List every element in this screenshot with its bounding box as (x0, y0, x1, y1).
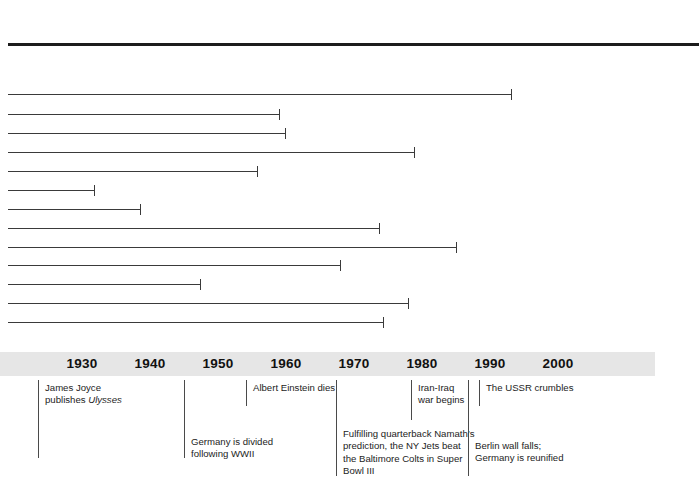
lifespan-bar-end-cap (94, 185, 95, 196)
axis-tick-label-1940: 1940 (135, 354, 166, 374)
annotation-text: Fulfilling quarterback Namath’s predicti… (343, 426, 475, 478)
axis-tick-label-1950: 1950 (203, 354, 234, 374)
annotation-3: Albert Einstein dies (246, 380, 335, 406)
lifespan-bar-line (8, 322, 384, 323)
lifespan-bar (8, 247, 457, 248)
lifespan-bar-end-cap (279, 109, 280, 120)
lifespan-bar-line (8, 284, 201, 285)
lifespan-bar (8, 190, 95, 191)
lifespan-bar (8, 171, 258, 172)
axis-tick-label-1970: 1970 (339, 354, 370, 374)
annotation-1: James Joyce publishes Ulysses (38, 380, 122, 458)
lifespan-bar-end-cap (456, 242, 457, 253)
lifespan-bar-end-cap (379, 223, 380, 234)
annotation-5: Iran-Iraq war begins (411, 380, 464, 420)
lifespan-bar (8, 322, 384, 323)
annotation-text: Iran-Iraq war begins (418, 380, 464, 407)
lifespan-bar (8, 228, 380, 229)
timeline-chart: 19301940195019601970198019902000 James J… (0, 0, 699, 502)
lifespan-bar-end-cap (383, 317, 384, 328)
annotation-text: James Joyce publishes Ulysses (45, 380, 122, 407)
annotation-italic-title: Ulysses (88, 394, 122, 405)
lifespan-bar-end-cap (140, 204, 141, 215)
lifespan-bar-line (8, 303, 409, 304)
lifespan-bar-line (8, 114, 280, 115)
lifespan-bar (8, 284, 201, 285)
annotation-tick-line (336, 380, 337, 476)
annotation-text: Albert Einstein dies (253, 380, 335, 394)
axis-tick-label-1990: 1990 (475, 354, 506, 374)
annotation-tick-line (411, 380, 412, 420)
annotation-text: The USSR crumbles (486, 380, 573, 394)
annotation-tick-line (184, 380, 185, 458)
annotations-layer: James Joyce publishes UlyssesGermany is … (0, 376, 699, 502)
lifespan-bar (8, 94, 512, 95)
lifespan-bar (8, 152, 415, 153)
lifespan-bar-line (8, 171, 258, 172)
annotation-tick-line (38, 380, 39, 458)
lifespan-bar-line (8, 133, 286, 134)
lifespan-bar-end-cap (200, 279, 201, 290)
annotation-text: Berlin wall falls; Germany is reunified (475, 438, 564, 465)
annotation-tick-line (468, 380, 469, 476)
lifespan-bar-line (8, 190, 95, 191)
lifespan-bar-line (8, 228, 380, 229)
lifespan-bar (8, 303, 409, 304)
lifespan-bar-line (8, 152, 415, 153)
axis-tick-label-1980: 1980 (407, 354, 438, 374)
lifespan-bar (8, 209, 141, 210)
annotation-tick-line (479, 380, 480, 406)
annotation-7: The USSR crumbles (479, 380, 573, 406)
lifespan-bar-end-cap (408, 298, 409, 309)
annotation-text: Germany is divided following WWII (191, 434, 273, 461)
lifespan-bar-end-cap (257, 166, 258, 177)
lifespan-bar-end-cap (414, 147, 415, 158)
lifespan-bar (8, 133, 286, 134)
lifespan-bar-end-cap (285, 128, 286, 139)
lifespan-bar (8, 114, 280, 115)
lifespan-bar-line (8, 265, 341, 266)
lifespan-bar-line (8, 247, 457, 248)
lifespan-bar-line (8, 209, 141, 210)
axis-tick-label-1930: 1930 (67, 354, 98, 374)
lifespan-bar-line (8, 94, 512, 95)
lifespan-bar-end-cap (340, 260, 341, 271)
lifespan-bar-end-cap (511, 89, 512, 100)
lifespan-bars-layer (0, 0, 699, 352)
lifespan-bar (8, 265, 341, 266)
annotation-tick-line (246, 380, 247, 406)
axis-tick-label-1960: 1960 (271, 354, 302, 374)
axis-tick-label-2000: 2000 (543, 354, 574, 374)
